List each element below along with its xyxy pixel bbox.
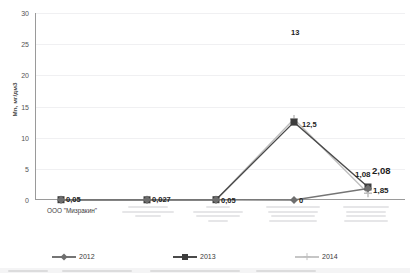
- cross-marker-icon: [304, 256, 311, 258]
- chart-legend: 2012 2013 2014: [0, 248, 410, 268]
- series-2013-markers: [58, 119, 372, 204]
- data-label-0: 0: [299, 196, 303, 205]
- chart-container: Mn, мг/дм3 30 25 20 15 10 5 0: [0, 0, 410, 273]
- series-2013-line: [61, 122, 368, 200]
- legend-label-2014: 2014: [322, 253, 338, 260]
- data-label-2-08: 2,08: [372, 165, 391, 176]
- series-2012-markers: [57, 185, 372, 205]
- x-category-label-2: [122, 206, 174, 217]
- legend-swatch-2012: [52, 252, 76, 261]
- plot-area: [35, 13, 405, 200]
- y-tick-25: 25: [21, 41, 29, 48]
- legend-item-2013[interactable]: 2013: [173, 252, 216, 261]
- y-axis-tick-labels: 30 25 20 15 10 5 0: [0, 0, 34, 273]
- data-label-13: 13: [291, 28, 299, 37]
- data-label-1-08: 1,08: [355, 170, 371, 179]
- series-lines: [36, 13, 406, 200]
- data-label-0-027: 0,027: [152, 195, 171, 204]
- y-tick-20: 20: [21, 72, 29, 79]
- y-tick-0: 0: [25, 197, 29, 204]
- y-tick-30: 30: [21, 10, 29, 17]
- legend-item-2012[interactable]: 2012: [52, 252, 95, 261]
- data-label-0-05-b: 0,05: [221, 196, 236, 205]
- x-category-label-4: [266, 206, 320, 222]
- data-label-1-85: 1,85: [373, 186, 389, 195]
- diamond-marker-icon: [60, 253, 67, 260]
- series-2014-markers: [57, 115, 372, 204]
- y-tick-15: 15: [21, 103, 29, 110]
- x-category-label-3: [193, 206, 243, 222]
- data-label-0-05-a: 0,05: [66, 195, 81, 204]
- legend-item-2014[interactable]: 2014: [295, 252, 338, 261]
- legend-label-2012: 2012: [79, 253, 95, 260]
- legend-swatch-2014: [295, 252, 319, 261]
- series-2014-line: [61, 119, 368, 200]
- scan-artifact-strip: [0, 268, 410, 273]
- x-category-label-5: [343, 206, 389, 222]
- y-tick-10: 10: [21, 134, 29, 141]
- y-tick-5: 5: [25, 165, 29, 172]
- x-category-label-1: ООО "Мизракин": [47, 207, 97, 214]
- square-marker-icon: [182, 254, 188, 260]
- legend-swatch-2013: [173, 252, 197, 261]
- data-label-12-5: 12,5: [302, 120, 317, 129]
- legend-label-2013: 2013: [200, 253, 216, 260]
